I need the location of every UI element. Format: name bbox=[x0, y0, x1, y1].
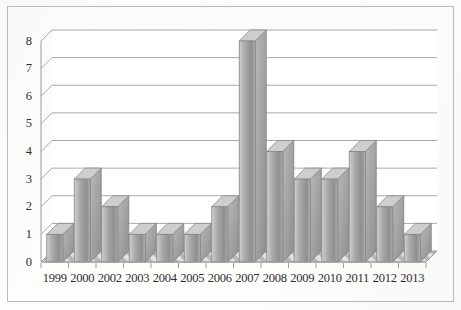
chart-page: 0123456781999200020022003200420052006200… bbox=[0, 0, 461, 310]
bar-column bbox=[267, 141, 294, 263]
y-axis-tick-label: 1 bbox=[16, 228, 32, 240]
y-axis-tick-label: 2 bbox=[16, 200, 32, 212]
y-axis-tick-label: 6 bbox=[16, 90, 32, 102]
y-axis-tick-label: 8 bbox=[16, 35, 32, 47]
x-axis-category-label: 2011 bbox=[344, 272, 372, 285]
x-axis-category-label: 2013 bbox=[399, 272, 427, 285]
x-axis-category-label: 2002 bbox=[96, 272, 124, 285]
x-axis-category-label: 2005 bbox=[179, 272, 207, 285]
bar-column bbox=[239, 30, 266, 262]
x-axis-category-label: 2003 bbox=[124, 272, 152, 285]
bar-column bbox=[349, 141, 376, 263]
x-axis-category-label: 2007 bbox=[234, 272, 262, 285]
x-axis-category-label: 2010 bbox=[316, 272, 344, 285]
x-axis-category-label: 2008 bbox=[261, 272, 289, 285]
bar-column bbox=[322, 168, 349, 262]
x-axis-category-label: 2009 bbox=[289, 272, 317, 285]
bar-column bbox=[74, 168, 101, 262]
y-axis-tick-label: 3 bbox=[16, 173, 32, 185]
y-axis-tick-label: 7 bbox=[16, 62, 32, 74]
bar-column bbox=[102, 196, 129, 262]
x-axis-category-label: 2006 bbox=[206, 272, 234, 285]
bar-column bbox=[294, 168, 321, 262]
x-axis-category-label: 2012 bbox=[371, 272, 399, 285]
x-axis-category-label: 2004 bbox=[151, 272, 179, 285]
x-axis-category-label: 1999 bbox=[41, 272, 69, 285]
y-axis-tick-label: 4 bbox=[16, 145, 32, 157]
y-axis-tick-label: 5 bbox=[16, 117, 32, 129]
x-axis-category-label: 2000 bbox=[69, 272, 97, 285]
chart-svg-canvas bbox=[0, 0, 461, 310]
bar-column bbox=[212, 196, 239, 262]
y-axis-tick-label: 0 bbox=[16, 256, 32, 268]
bar-column bbox=[377, 196, 404, 262]
